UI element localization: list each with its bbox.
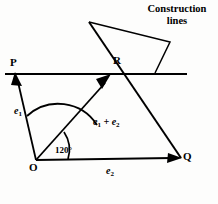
vector-label-e2-subscript: 2 <box>110 170 114 178</box>
vector-diagram-figure: P R O Q e1 e1 + e2 e2 120° Construction … <box>0 0 218 204</box>
vector-oq-shaft <box>36 158 172 160</box>
point-label-r: R <box>113 55 121 66</box>
point-label-q: Q <box>183 151 192 162</box>
callout-leader-line <box>89 22 170 73</box>
vector-label-resultant: e1 + e2 <box>93 117 120 129</box>
resultant-plus-sign: + <box>101 116 112 127</box>
vector-label-e2: e2 <box>106 166 114 178</box>
point-label-p: P <box>10 57 17 68</box>
resultant-term2-subscript: 2 <box>116 121 120 129</box>
construction-line-apex-to-q <box>89 22 181 158</box>
vector-or-arrowhead <box>96 74 111 89</box>
vector-label-e1: e1 <box>14 106 22 118</box>
point-label-o: O <box>29 162 38 173</box>
angle-label-120: 120° <box>55 146 72 155</box>
vector-label-e1-subscript: 1 <box>18 110 22 118</box>
construction-lines-callout: Construction lines <box>140 3 214 27</box>
vector-op-shaft <box>18 82 36 160</box>
angle-arc-outer <box>27 104 97 125</box>
